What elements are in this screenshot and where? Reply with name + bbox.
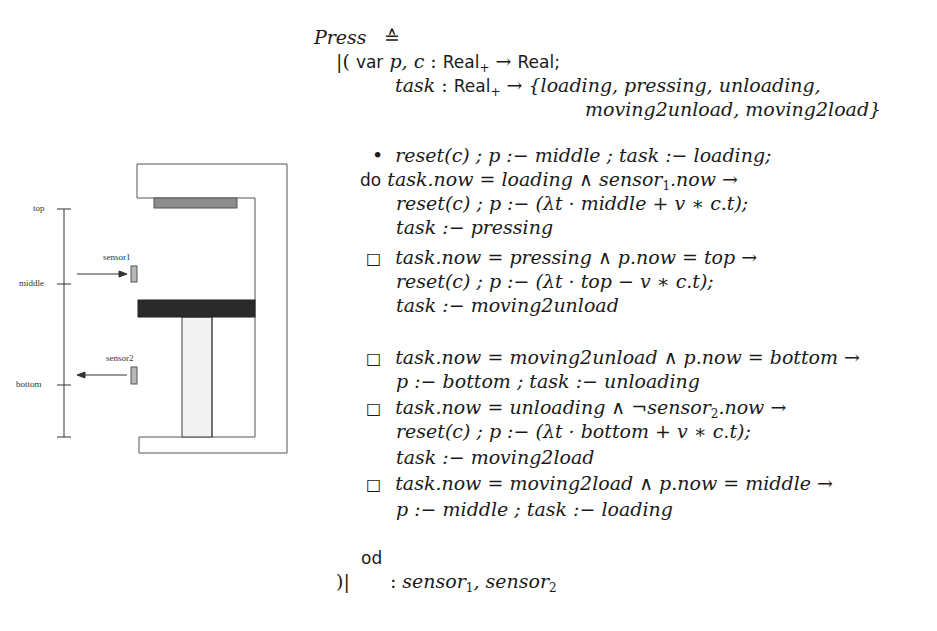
decl2-var: task [395,74,435,96]
guard-3: □ task.now = moving2unload ∧ p.now = bot… [366,346,860,370]
init-line: • reset(c) ; p :− middle ; task :− loadi… [372,144,771,166]
decl2-enum-1: {loading, pressing, unloading, [528,74,820,96]
choice-box: □ [366,349,381,368]
choice-box: □ [366,399,381,418]
definition-symbol: ≙ [383,26,401,48]
guard-1-action-1: reset(c) ; p :− (λt · middle + v ∗ c.t); [396,192,748,214]
od-keyword: od [361,548,382,568]
guard-1-action-2: task :− pressing [396,216,553,238]
decl1-domain-sub: + [479,61,489,75]
od-line: od [361,546,382,569]
decl1-arrow: → [496,50,512,72]
press-specification: Press ≙ |( var p, c : Real+ → Real; task… [0,0,937,631]
guard-5: □ task.now = moving2load ∧ p.now = middl… [366,472,833,496]
decl-line-3: moving2unload, moving2load} [585,98,881,120]
init-statement: reset(c) ; p :− middle ; task :− loading… [395,144,771,166]
var-keyword: var [356,52,383,72]
decl1-domain: Real [443,52,480,72]
close-bracket: )| [336,570,350,592]
guard-4-action-2: task :− moving2load [396,446,594,468]
guard-5-action-1: p :− middle ; task :− loading [396,498,673,520]
choice-box: □ [366,475,381,494]
do-keyword: do [360,170,381,190]
decl1-range: Real; [518,52,560,72]
bullet: • [372,144,383,166]
spec-header: Press ≙ [314,26,401,48]
open-bracket: |( [336,50,350,72]
interface-line: )| : sensor1, sensor2 [336,570,557,599]
guard-2: □ task.now = pressing ∧ p.now = top → [366,246,757,270]
guard-3-action-1: p :− bottom ; task :− unloading [396,370,700,392]
guard-2-action-1: reset(c) ; p :− (λt · top − v ∗ c.t); [396,270,714,292]
spec-title: Press [314,26,367,48]
decl1-vars: p, c [389,50,424,72]
decl2-enum-2: moving2unload, moving2load} [585,98,881,120]
guard-2-action-2: task :− moving2unload [396,294,619,316]
choice-box: □ [366,249,381,268]
guard-4-action-1: reset(c) ; p :− (λt · bottom + v ∗ c.t); [396,420,751,442]
